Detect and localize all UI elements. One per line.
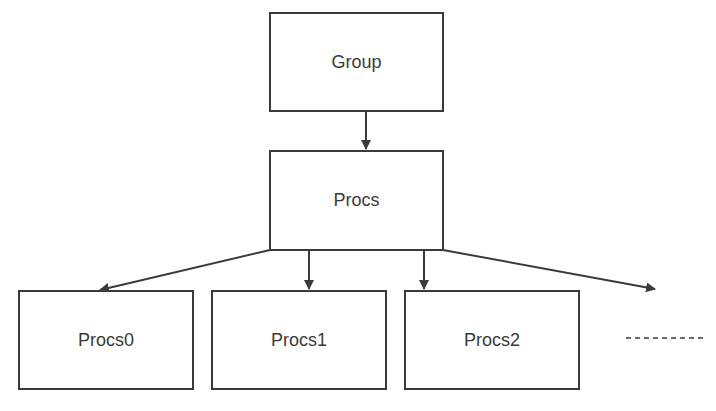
node-procs2: Procs2: [404, 290, 580, 390]
edge-procs-procs0: [100, 250, 270, 290]
edge-procs-more: [443, 250, 655, 289]
node-procs: Procs: [269, 150, 444, 251]
node-label: Procs1: [271, 330, 327, 351]
node-group: Group: [269, 12, 444, 112]
node-label: Procs: [333, 190, 379, 211]
node-procs0: Procs0: [18, 290, 194, 390]
node-label: Group: [331, 52, 381, 73]
node-label: Procs2: [464, 330, 520, 351]
node-procs1: Procs1: [211, 290, 387, 390]
node-label: Procs0: [78, 330, 134, 351]
